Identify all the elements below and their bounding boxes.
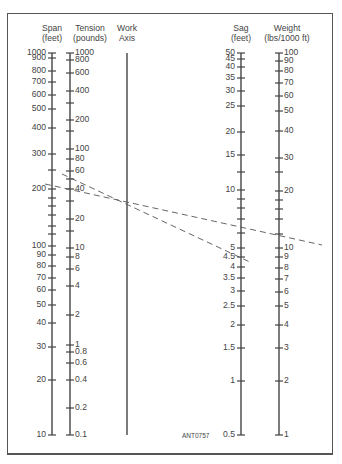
weight-tick-label: 4 (284, 320, 289, 329)
span-tick-label: 90 (16, 250, 46, 259)
span-tick-label: 300 (16, 149, 46, 158)
span-tick-label: 60 (16, 285, 46, 294)
weight-tick-label: 5 (284, 301, 289, 310)
weight-tick-label: 20 (284, 186, 294, 195)
span-tick-label: 40 (16, 318, 46, 327)
tension-tick-label: 0.6 (75, 358, 87, 367)
weight-tick-label: 70 (284, 78, 294, 87)
weight-tick-label: 3 (284, 343, 289, 352)
sag-tick-label: 15 (205, 150, 235, 159)
weight-tick-label: 90 (284, 56, 294, 65)
sag-tick-label: 40 (205, 62, 235, 71)
tension-tick-label: 6 (75, 264, 80, 273)
tension-tick-label: 20 (75, 214, 85, 223)
sag-tick-label: 30 (205, 86, 235, 95)
span-tick-label: 600 (16, 90, 46, 99)
weight-tick-label: 7 (284, 274, 289, 283)
tension-tick-label: 600 (75, 68, 89, 77)
span-tick-label: 20 (16, 375, 46, 384)
dashed-line-span-weight (45, 184, 322, 245)
weight-tick-label: 60 (284, 91, 294, 100)
weight-tick-label: 6 (284, 287, 289, 296)
tension-tick-label: 0.4 (75, 375, 87, 384)
sag-tick-label: 25 (205, 101, 235, 110)
sag-tick-label: 3.5 (205, 273, 235, 282)
nomograph: Span (feet) Tension (pounds) Work Axis S… (0, 0, 342, 464)
tension-tick-label: 0.2 (75, 403, 87, 412)
sag-tick-label: 4 (205, 262, 235, 271)
sag-tick-label: 2 (205, 320, 235, 329)
span-tick-label: 700 (16, 77, 46, 86)
tension-tick-label: 800 (75, 55, 89, 64)
sag-tick-label: 1.5 (205, 343, 235, 352)
weight-tick-label: 40 (284, 126, 294, 135)
weight-tick-label: 8 (284, 263, 289, 272)
sag-tick-label: 2.5 (205, 301, 235, 310)
sag-tick-label: 4.5 (205, 252, 235, 261)
span-tick-label: 70 (16, 273, 46, 282)
weight-tick-label: 50 (284, 106, 294, 115)
weight-tick-label: 9 (284, 252, 289, 261)
weight-tick-label: 2 (284, 376, 289, 385)
sag-tick-label: 3 (205, 286, 235, 295)
span-tick-label: 30 (16, 342, 46, 351)
span-tick-label: 400 (16, 123, 46, 132)
span-tick-label: 900 (16, 53, 46, 62)
span-tick-label: 80 (16, 261, 46, 270)
sag-tick-label: 0.5 (205, 430, 235, 439)
tension-tick-label: 40 (75, 184, 85, 193)
sag-tick-label: 10 (205, 185, 235, 194)
tension-tick-label: 400 (75, 86, 89, 95)
span-tick-label: 800 (16, 66, 46, 75)
span-tick-label: 500 (16, 104, 46, 113)
span-tick-label: 50 (16, 300, 46, 309)
sag-tick-label: 1 (205, 376, 235, 385)
figure-code: ANT0757 (182, 432, 209, 439)
tension-tick-label: 4 (75, 281, 80, 290)
weight-tick-label: 80 (284, 66, 294, 75)
weight-tick-label: 30 (284, 153, 294, 162)
tension-tick-label: 100 (75, 144, 89, 153)
tension-tick-label: 200 (75, 115, 89, 124)
tension-tick-label: 0.8 (75, 347, 87, 356)
span-tick-label: 10 (16, 430, 46, 439)
tension-tick-label: 2 (75, 310, 80, 319)
span-tick-label: 200 (16, 184, 46, 193)
tension-tick-label: 8 (75, 252, 80, 261)
tension-tick-label: 0.1 (75, 430, 87, 439)
sag-tick-label: 20 (205, 127, 235, 136)
tension-tick-label: 60 (75, 166, 85, 175)
weight-tick-label: 1 (284, 430, 289, 439)
sag-tick-label: 35 (205, 73, 235, 82)
tension-tick-label: 80 (75, 154, 85, 163)
